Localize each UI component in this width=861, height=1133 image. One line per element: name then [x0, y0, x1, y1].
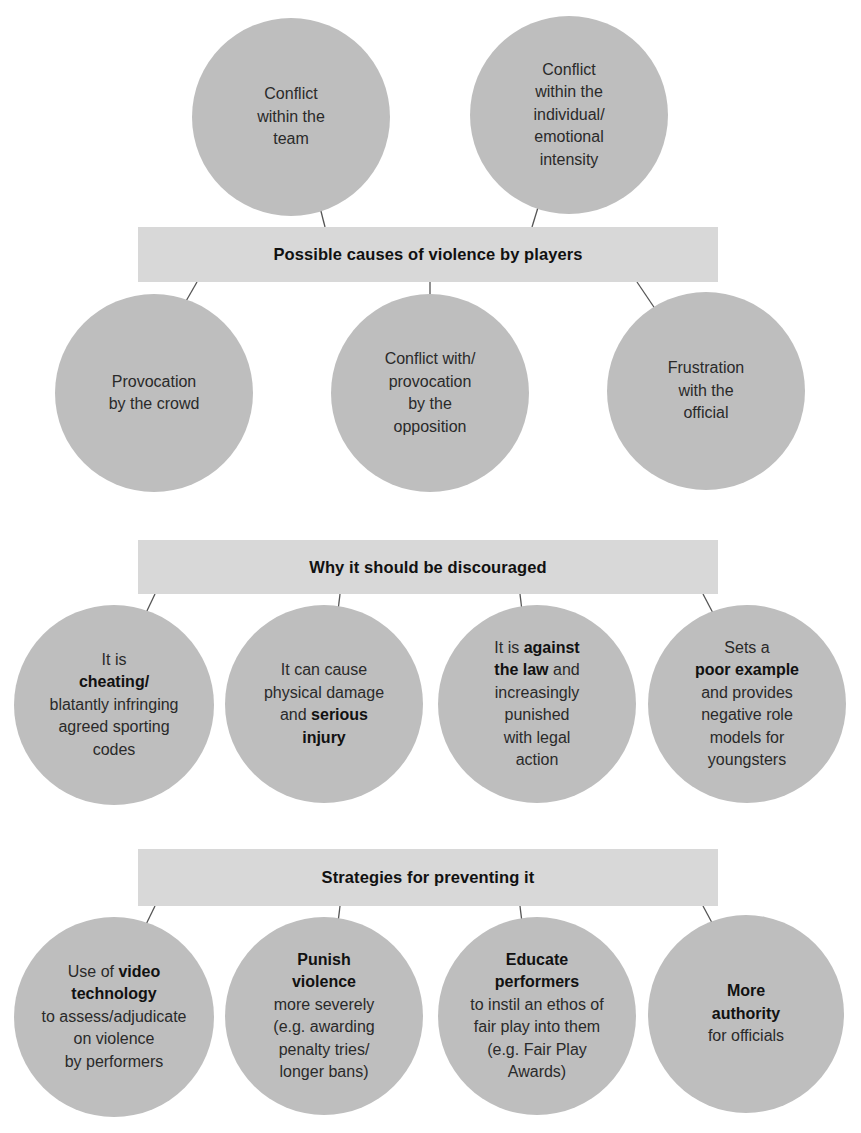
cause-circle-crowd-provocation: Provocationby the crowd	[55, 294, 253, 492]
cause-circle-official-frustration: Frustrationwith theofficial	[607, 292, 805, 490]
strategy-circle-video-technology: Use of videotechnologyto assess/adjudica…	[14, 917, 214, 1117]
banner-title: Possible causes of violence by players	[273, 245, 582, 264]
reason-circle-cheating: It ischeating/blatantly infringingagreed…	[14, 605, 214, 805]
reason-text: Sets apoor exampleand providesnegative r…	[689, 637, 805, 772]
banner-strategies: Strategies for preventing it	[138, 849, 718, 906]
cause-circle-opposition-conflict: Conflict with/provocationby theoppositio…	[331, 294, 529, 492]
cause-text: Conflictwithin theindividual/emotionalin…	[527, 59, 610, 172]
reason-circle-injury: It can causephysical damageand seriousin…	[225, 605, 423, 803]
cause-circle-individual-conflict: Conflictwithin theindividual/emotionalin…	[470, 16, 668, 214]
banner-causes: Possible causes of violence by players	[138, 227, 718, 282]
cause-text: Frustrationwith theofficial	[662, 357, 750, 425]
strategy-text: Moreauthorityfor officials	[702, 980, 790, 1048]
reason-circle-law: It is againstthe law andincreasinglypuni…	[438, 605, 636, 803]
strategy-circle-more-authority: Moreauthorityfor officials	[648, 915, 844, 1113]
strategy-circle-punish-violence: Punishviolencemore severely(e.g. awardin…	[225, 917, 423, 1115]
reason-text: It can causephysical damageand seriousin…	[258, 659, 390, 749]
strategy-text: Educateperformersto instil an ethos offa…	[464, 949, 609, 1084]
strategy-text: Punishviolencemore severely(e.g. awardin…	[267, 949, 380, 1084]
banner-title: Strategies for preventing it	[322, 868, 535, 887]
cause-text: Provocationby the crowd	[103, 371, 206, 416]
cause-text: Conflictwithin theteam	[251, 83, 331, 151]
cause-text: Conflict with/provocationby theoppositio…	[379, 348, 482, 438]
banner-title: Why it should be discouraged	[309, 558, 546, 577]
reason-text: It ischeating/blatantly infringingagreed…	[44, 649, 185, 762]
cause-circle-team-conflict: Conflictwithin theteam	[192, 18, 390, 216]
reason-text: It is againstthe law andincreasinglypuni…	[488, 637, 585, 772]
banner-why-discouraged: Why it should be discouraged	[138, 540, 718, 594]
strategy-text: Use of videotechnologyto assess/adjudica…	[36, 961, 193, 1074]
strategy-circle-educate-performers: Educateperformersto instil an ethos offa…	[438, 917, 636, 1115]
reason-circle-poor-example: Sets apoor exampleand providesnegative r…	[648, 605, 846, 803]
